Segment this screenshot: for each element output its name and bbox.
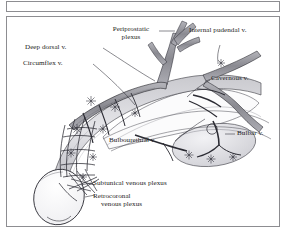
glans-penis [27, 163, 92, 226]
label-periprostatic-plexus: Periprostatic plexus [103, 25, 159, 42]
label-deep-dorsal-v: Deep dorsal v. [25, 43, 66, 51]
label-retrocoronal-venous-plexus: Retrocoronal venous plexus [93, 192, 142, 209]
label-cavernous-v: Cavernous v. [211, 74, 249, 82]
figure-page: Periprostatic plexus Internal pudendal v… [0, 0, 287, 230]
label-circumflex-v: Circumflex v. [23, 59, 63, 67]
label-bulbourethral-v: Bulbourethral v. [109, 136, 156, 144]
label-subtunical-venous-plexus: Subtunical venous plexus [93, 179, 167, 187]
label-retrocoronal-line2: venous plexus [93, 200, 142, 208]
label-internal-pudendal-v: Internal pudendal v. [189, 26, 246, 34]
label-periprostatic-line1: Periprostatic [113, 25, 150, 33]
label-retrocoronal-line1: Retrocoronal [93, 192, 131, 200]
leader-internal-pudendal [218, 45, 220, 62]
top-blank-band [6, 1, 280, 12]
label-bulbar-v: Bulbar v. [237, 129, 263, 137]
label-periprostatic-line2: plexus [122, 33, 141, 41]
leader-deep-dorsal [103, 48, 155, 81]
figure-frame: Periprostatic plexus Internal pudendal v… [6, 16, 280, 227]
